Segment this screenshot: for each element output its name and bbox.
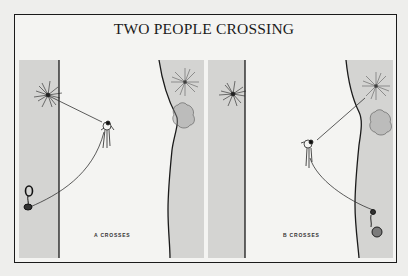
panel-b-illustration xyxy=(207,60,393,260)
panel-a: A CROSSES xyxy=(18,60,204,260)
left-bank xyxy=(19,60,59,258)
panel-a-caption: A CROSSES xyxy=(94,232,130,238)
panel-a-illustration xyxy=(18,60,204,260)
rope-to-anchor xyxy=(317,98,365,140)
climber-b-icon xyxy=(301,140,313,168)
figure-title: TWO PEOPLE CROSSING xyxy=(0,20,408,38)
tree-icon xyxy=(171,68,199,96)
panel-b: B CROSSES xyxy=(207,60,393,260)
panel-b-caption: B CROSSES xyxy=(283,232,320,238)
tree-anchor-icon xyxy=(362,72,390,100)
